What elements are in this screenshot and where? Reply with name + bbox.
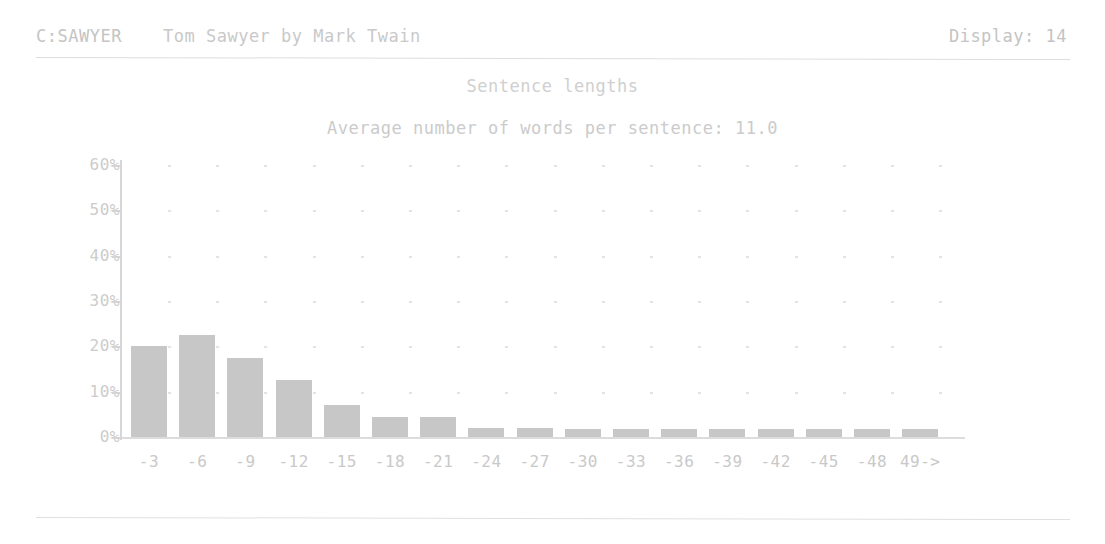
gridline-dot	[843, 346, 846, 348]
gridline-dot	[264, 301, 267, 303]
gridline-dot	[650, 210, 653, 212]
gridline-dot	[650, 346, 653, 348]
gridline-dot	[891, 210, 894, 212]
gridline-dot	[457, 301, 460, 303]
gridline-dot	[698, 210, 701, 212]
gridline-dot	[457, 165, 460, 167]
gridline-dot	[554, 165, 557, 167]
x-axis-tick-label: -12	[268, 452, 320, 471]
gridline-dot	[650, 301, 653, 303]
gridline-dot	[361, 346, 364, 348]
histogram-bar	[758, 429, 794, 437]
y-axis-tick-mark	[112, 256, 121, 258]
x-axis-tick-label: -30	[557, 452, 609, 471]
histogram-bar	[613, 429, 649, 437]
x-axis-tick-label: -27	[509, 452, 561, 471]
gridline-dot	[409, 165, 412, 167]
gridline-dot	[795, 392, 798, 394]
y-axis-tick-mark	[112, 210, 121, 212]
histogram-bar	[131, 346, 167, 437]
gridline-dot	[795, 165, 798, 167]
gridline-dot	[554, 256, 557, 258]
gridline-dot	[361, 210, 364, 212]
gridline-dot	[746, 346, 749, 348]
gridline	[120, 256, 965, 258]
gridline-dot	[795, 256, 798, 258]
gridline-dot	[891, 346, 894, 348]
histogram-bar	[565, 429, 601, 437]
x-axis-tick-label: -42	[750, 452, 802, 471]
gridline-dot	[891, 301, 894, 303]
gridline-dot	[746, 256, 749, 258]
gridline-dot	[746, 165, 749, 167]
histogram-bar	[372, 417, 408, 437]
gridline	[120, 165, 965, 167]
gridline-dot	[843, 256, 846, 258]
gridline-dot	[843, 392, 846, 394]
y-axis-tick-mark	[112, 165, 121, 167]
x-axis-tick-label: -45	[798, 452, 850, 471]
gridline-dot	[698, 346, 701, 348]
gridline-dot	[843, 165, 846, 167]
gridline-dot	[409, 210, 412, 212]
gridline-dot	[602, 256, 605, 258]
gridline-dot	[554, 346, 557, 348]
histogram-bar	[854, 429, 890, 437]
y-axis-tick-mark	[112, 301, 121, 303]
histogram-bar	[806, 429, 842, 437]
gridline-dot	[505, 346, 508, 348]
histogram-bar	[709, 429, 745, 437]
gridline-dot	[264, 210, 267, 212]
gridline-dot	[650, 165, 653, 167]
gridline-dot	[409, 346, 412, 348]
sentence-length-histogram: 0%10%20%30%40%50%60% -3-6-9-12-15-18-21-…	[0, 0, 1105, 544]
gridline-dot	[843, 301, 846, 303]
gridline-dot	[216, 392, 219, 394]
gridline-dot	[698, 392, 701, 394]
y-axis-tick-mark	[112, 437, 121, 439]
histogram-bar	[468, 428, 504, 437]
gridline-dot	[361, 301, 364, 303]
histogram-bar	[517, 428, 553, 437]
gridline-dot	[554, 301, 557, 303]
gridline-dot	[891, 256, 894, 258]
gridline-dot	[168, 165, 171, 167]
gridline-dot	[505, 210, 508, 212]
y-axis-tick-mark	[112, 392, 121, 394]
gridline-dot	[698, 165, 701, 167]
x-axis-line	[120, 437, 965, 439]
gridline-dot	[313, 392, 316, 394]
gridline-dot	[698, 256, 701, 258]
gridline-dot	[746, 301, 749, 303]
gridline-dot	[505, 392, 508, 394]
x-axis-tick-label: -6	[171, 452, 223, 471]
gridline-dot	[216, 165, 219, 167]
gridline-dot	[746, 392, 749, 394]
gridline-dot	[554, 210, 557, 212]
gridline-dot	[216, 346, 219, 348]
gridline-dot	[602, 301, 605, 303]
x-axis-tick-label: -24	[460, 452, 512, 471]
x-axis-tick-label: 49->	[894, 452, 946, 471]
gridline-dot	[939, 210, 942, 212]
gridline-dot	[939, 301, 942, 303]
x-axis-tick-label: -39	[701, 452, 753, 471]
gridline	[120, 346, 965, 348]
x-axis-tick-label: -9	[219, 452, 271, 471]
histogram-bar	[276, 380, 312, 437]
gridline-dot	[505, 165, 508, 167]
gridline-dot	[168, 346, 171, 348]
gridline-dot	[361, 392, 364, 394]
x-axis-tick-label: -15	[316, 452, 368, 471]
gridline-dot	[216, 210, 219, 212]
gridline-dot	[264, 392, 267, 394]
y-axis-line	[120, 160, 122, 440]
histogram-bar	[902, 429, 938, 437]
gridline-dot	[602, 165, 605, 167]
histogram-bar	[661, 429, 697, 437]
gridline-dot	[795, 301, 798, 303]
gridline-dot	[795, 210, 798, 212]
gridline-dot	[602, 392, 605, 394]
gridline-dot	[698, 301, 701, 303]
gridline-dot	[554, 392, 557, 394]
